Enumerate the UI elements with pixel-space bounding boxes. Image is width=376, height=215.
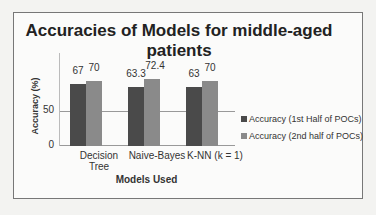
x-tick-knn: K-NN (k = 1) bbox=[185, 150, 245, 161]
x-tick-decision-tree: Decision Tree bbox=[69, 150, 129, 172]
bar-knn-second-half bbox=[202, 81, 218, 146]
y-tick-0: 0 bbox=[38, 139, 54, 150]
value-label: 70 bbox=[79, 62, 109, 73]
x-tick-naive-bayes: Naive-Bayes bbox=[127, 150, 187, 161]
legend-swatch-icon bbox=[241, 133, 247, 139]
value-label: 72.4 bbox=[140, 60, 170, 71]
legend-item-second-half: Accuracy (2nd half of POCs) bbox=[241, 131, 363, 148]
value-label: 70 bbox=[195, 62, 225, 73]
bar-naive-bayes-second-half bbox=[144, 79, 160, 146]
x-axis-label: Models Used bbox=[59, 174, 234, 185]
plot-area: 50 0 67 70 63.3 72.4 63 70 bbox=[59, 53, 235, 146]
chart-frame: Accuracies of Models for middle-aged pat… bbox=[13, 12, 363, 199]
bar-decision-tree-first-half bbox=[70, 84, 86, 146]
y-tick-50: 50 bbox=[38, 104, 54, 115]
legend: Accuracy (1st Half of POCs) Accuracy (2n… bbox=[241, 114, 363, 148]
bar-knn-first-half bbox=[186, 87, 202, 146]
bar-decision-tree-second-half bbox=[86, 81, 102, 146]
bar-naive-bayes-first-half bbox=[128, 87, 144, 146]
legend-item-first-half: Accuracy (1st Half of POCs) bbox=[241, 114, 363, 131]
legend-swatch-icon bbox=[241, 116, 247, 122]
